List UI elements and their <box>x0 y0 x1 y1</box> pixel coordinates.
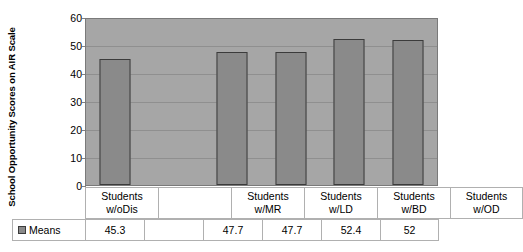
category-cell-wbd: Students w/BD <box>377 187 450 219</box>
y-tick-label: 30 <box>52 96 82 108</box>
legend-swatch-icon <box>18 226 26 234</box>
category-cell-blank <box>158 187 231 219</box>
legend-entry-means: Means <box>12 219 85 241</box>
bar-students-wodis[interactable] <box>100 59 131 185</box>
y-tick-label: 40 <box>52 68 82 80</box>
bar-slot <box>320 19 379 185</box>
value-cell-wod: 52 <box>380 219 439 241</box>
table-row-values: Means 45.3 47.7 47.7 52.4 52 <box>12 219 439 241</box>
plot-area <box>85 18 438 186</box>
category-cell-wod: Students w/OD <box>450 187 523 219</box>
y-tick-label: 20 <box>52 124 82 136</box>
bar-slot <box>262 19 321 185</box>
category-label: Students w/BD <box>393 190 434 216</box>
value-cell-wodis: 45.3 <box>85 219 144 241</box>
category-cell-wodis: Students w/oDis <box>85 187 158 219</box>
bar-students-wod[interactable] <box>392 40 423 185</box>
bar-students-wmr[interactable] <box>217 52 248 185</box>
bar-students-wld[interactable] <box>275 52 306 185</box>
value-cell-wbd: 52.4 <box>321 219 380 241</box>
table-row-categories: Students w/oDis Students w/MR Students w… <box>12 187 439 219</box>
y-tick-label: 50 <box>52 40 82 52</box>
category-label: Students w/oDis <box>101 190 142 216</box>
data-table: Students w/oDis Students w/MR Students w… <box>12 187 439 243</box>
category-cell-wld: Students w/LD <box>304 187 377 219</box>
bar-slot <box>203 19 262 185</box>
table-corner-cell <box>12 187 85 219</box>
category-label: Students w/MR <box>247 190 288 216</box>
y-tick-label: 10 <box>52 152 82 164</box>
bar-series-means <box>86 19 437 185</box>
legend-label: Means <box>29 224 61 236</box>
category-label: Students w/OD <box>466 190 507 216</box>
bar-students-wbd[interactable] <box>334 39 365 185</box>
value-cell-wld: 47.7 <box>262 219 321 241</box>
category-label: Students w/LD <box>320 190 361 216</box>
y-axis-tick-labels: 60 50 40 30 20 10 0 <box>52 0 82 195</box>
bar-slot <box>379 19 438 185</box>
value-cell-blank <box>144 219 203 241</box>
bar-slot-empty <box>145 19 204 185</box>
value-cell-wmr: 47.7 <box>203 219 262 241</box>
bar-slot <box>86 19 145 185</box>
category-cell-wmr: Students w/MR <box>231 187 304 219</box>
y-tick-label: 60 <box>52 12 82 24</box>
